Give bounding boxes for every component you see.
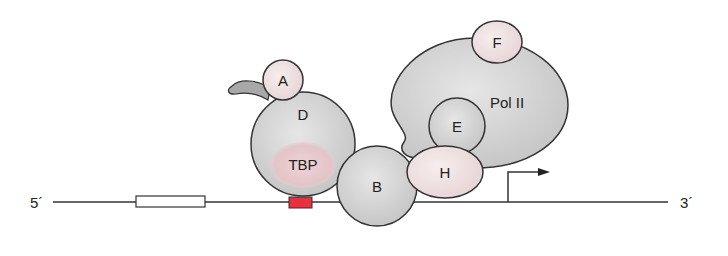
tbp-label: TBP [288,156,317,173]
upstream-element-box [136,196,205,207]
tfiie-label: E [452,118,462,135]
tfiib-label: B [372,178,382,195]
pic-diagram: 5´ 3´ Pol II F E D TBP A B H [0,0,728,256]
three-prime-label: 3´ [680,194,693,211]
tfiid-label: D [298,106,309,123]
tfiif-label: F [492,34,501,51]
pol-ii-label: Pol II [490,94,524,111]
tata-box [289,197,312,208]
five-prime-label: 5´ [30,194,43,211]
tfiia-label: A [278,72,288,89]
transcription-start-arrow [508,168,550,202]
tfiih-label: H [440,164,451,181]
